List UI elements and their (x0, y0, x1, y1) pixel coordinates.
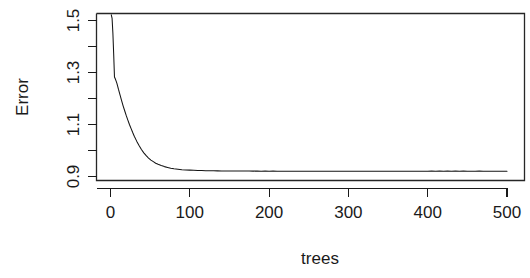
line-series-oob-error (111, 15, 507, 172)
y-axis-tick-label: 1.1 (64, 113, 83, 137)
x-axis: 0100200300400500 (97, 189, 522, 223)
plot-figure: 0.91.11.31.5 0100200300400500 Error tree… (0, 0, 530, 278)
x-axis-tick-label: 100 (176, 203, 204, 222)
plot-box (97, 14, 525, 181)
x-axis-tick-label: 500 (493, 203, 521, 222)
plot-box-outline (97, 14, 525, 181)
x-axis-title: trees (301, 249, 339, 268)
x-axis-tick-label: 400 (414, 203, 442, 222)
x-axis-tick-label: 300 (334, 203, 362, 222)
y-axis-tick-label: 0.9 (64, 165, 83, 189)
x-axis-tick-label: 0 (106, 203, 115, 222)
x-axis-tick-label: 200 (255, 203, 283, 222)
chart-canvas: 0.91.11.31.5 0100200300400500 Error tree… (0, 0, 530, 278)
y-axis-tick-label: 1.5 (64, 9, 83, 33)
y-axis: 0.91.11.31.5 (64, 9, 96, 189)
y-axis-title: Error (13, 78, 32, 116)
y-axis-tick-label: 1.3 (64, 61, 83, 85)
data-series-group (111, 15, 507, 172)
